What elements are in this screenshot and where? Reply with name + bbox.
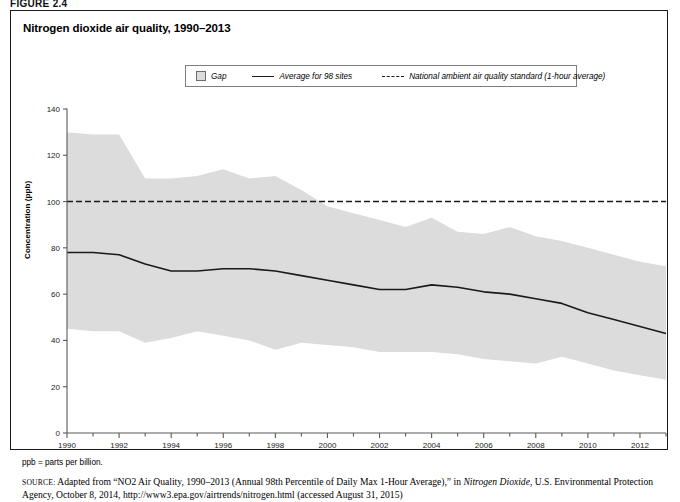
- x-tick-label: 2008: [527, 441, 545, 449]
- note-source: SOURCE: Adapted from “NO2 Air Quality, 1…: [22, 476, 662, 502]
- source-publication: Nitrogen Dioxide: [463, 476, 530, 487]
- figure-number: FIGURE 2.4: [10, 0, 67, 9]
- y-tick-label: 40: [51, 336, 60, 345]
- source-text-part1: Adapted from “NO2 Air Quality, 1990–2013…: [55, 476, 463, 487]
- figure-container: Nitrogen dioxide air quality, 1990–2013 …: [10, 10, 668, 450]
- y-tick-label: 100: [47, 198, 61, 207]
- x-tick-label: 2012: [631, 441, 649, 449]
- y-tick-label: 140: [47, 105, 61, 114]
- x-tick-label: 1998: [266, 441, 284, 449]
- chart-plot-area: 0204060801001201401990199219941996199820…: [11, 11, 669, 449]
- y-tick-label: 120: [47, 151, 61, 160]
- y-tick-label: 20: [51, 383, 60, 392]
- y-tick-label: 0: [56, 429, 61, 438]
- source-label: SOURCE:: [22, 478, 55, 487]
- x-tick-label: 2002: [371, 441, 389, 449]
- x-tick-label: 1996: [214, 441, 232, 449]
- x-tick-label: 1992: [110, 441, 128, 449]
- gap-band-area: [67, 132, 666, 380]
- x-tick-label: 2000: [319, 441, 337, 449]
- figure-notes: ppb = parts per billion. SOURCE: Adapted…: [22, 458, 662, 502]
- y-tick-label: 60: [51, 290, 60, 299]
- x-tick-label: 2004: [423, 441, 441, 449]
- x-tick-label: 2006: [475, 441, 493, 449]
- y-tick-label: 80: [51, 244, 60, 253]
- x-tick-label: 1990: [58, 441, 76, 449]
- note-ppb: ppb = parts per billion.: [22, 458, 662, 467]
- x-tick-label: 2010: [579, 441, 597, 449]
- x-tick-label: 1994: [162, 441, 180, 449]
